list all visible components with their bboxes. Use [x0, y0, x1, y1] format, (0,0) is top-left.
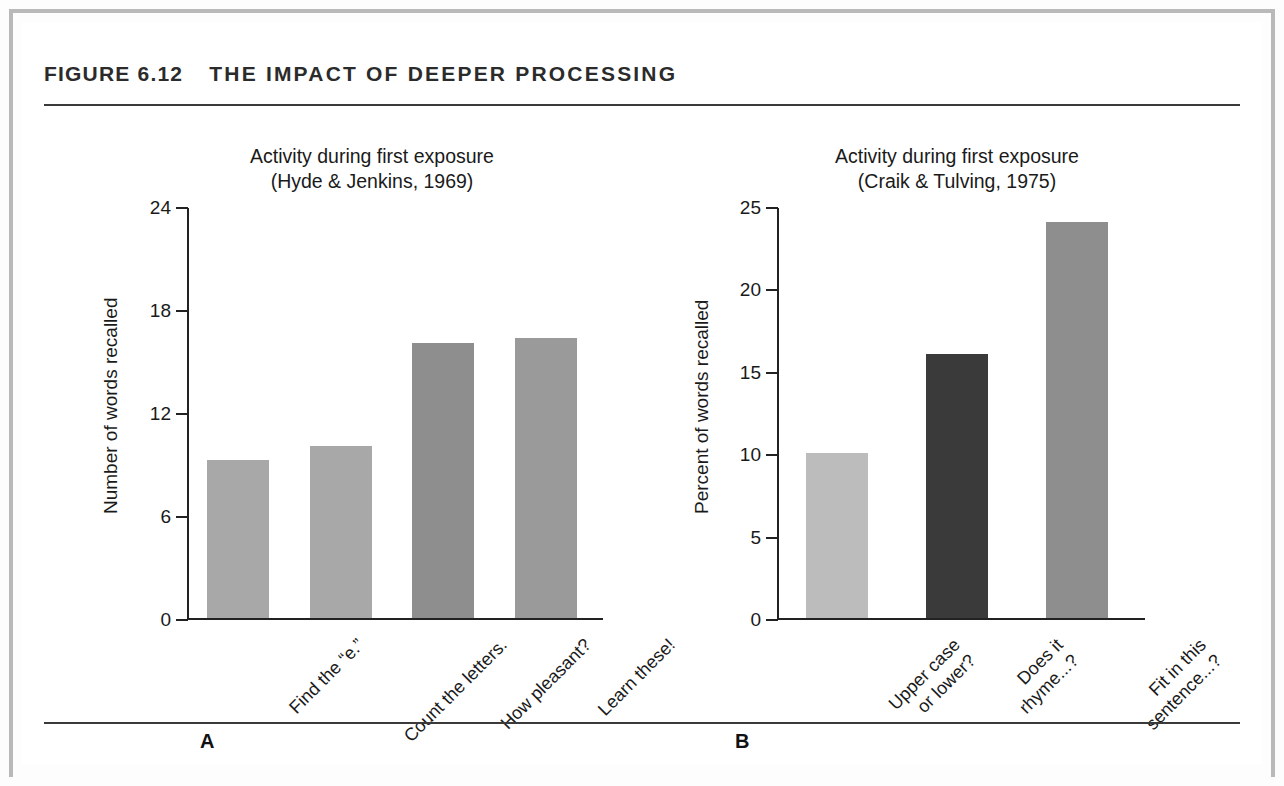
- y-tick-a-1: [176, 516, 188, 518]
- figure-header: FIGURE 6.12 THE IMPACT OF DEEPER PROCESS…: [44, 62, 1224, 86]
- y-tick-b-2: [766, 454, 778, 456]
- y-tick-label-b-5: 25: [740, 197, 761, 219]
- y-tick-a-4: [176, 207, 188, 209]
- chart-panel-b: Activity during first exposure (Craik & …: [677, 122, 1237, 762]
- panel-letter-a: A: [200, 730, 214, 753]
- y-axis-title-a: Number of words recalled: [100, 298, 122, 514]
- y-tick-b-1: [766, 537, 778, 539]
- figure-title: THE IMPACT OF DEEPER PROCESSING: [209, 62, 677, 86]
- bar-b-2: [1046, 222, 1108, 618]
- y-tick-a-0: [176, 619, 188, 621]
- x-axis-label-a-3: Learn these!: [593, 634, 679, 720]
- panel-b-title: Activity during first exposure (Craik & …: [677, 144, 1237, 194]
- bar-a-0: [207, 460, 269, 618]
- x-label-line: Learn these!: [594, 635, 679, 720]
- panel-b-title-line2: (Craik & Tulving, 1975): [677, 169, 1237, 194]
- x-axis-label-a-1: Count the letters.: [399, 634, 511, 746]
- page-border-left: [9, 9, 13, 777]
- bar-a-1: [310, 446, 372, 618]
- y-tick-label-b-4: 20: [740, 279, 761, 301]
- y-tick-label-a-3: 18: [150, 300, 171, 322]
- y-tick-b-3: [766, 372, 778, 374]
- figure-number: FIGURE 6.12: [44, 62, 183, 86]
- x-axis-label-b-0: Upper caseor lower?: [884, 634, 980, 730]
- y-tick-label-b-2: 10: [740, 444, 761, 466]
- y-tick-label-b-0: 0: [750, 609, 761, 631]
- bar-b-0: [806, 453, 868, 618]
- x-axis-b: [777, 618, 1145, 620]
- plot-area-a: 06121824 Find the “e.”Count the letters.…: [187, 208, 597, 620]
- x-axis-a: [187, 618, 603, 620]
- x-axis-label-b-2: Fit in thissentence...?: [1126, 634, 1226, 734]
- y-tick-a-2: [176, 413, 188, 415]
- page-border-top: [9, 9, 1275, 13]
- panel-a-title: Activity during first exposure (Hyde & J…: [82, 144, 662, 194]
- y-tick-label-a-1: 6: [160, 506, 171, 528]
- x-axis-label-a-0: Find the “e.”: [285, 634, 369, 718]
- y-tick-label-b-3: 15: [740, 362, 761, 384]
- bar-a-2: [412, 343, 474, 618]
- y-axis-b: [777, 208, 779, 620]
- y-tick-b-0: [766, 619, 778, 621]
- page-border-right: [1271, 9, 1275, 777]
- panel-a-title-line1: Activity during first exposure: [250, 145, 494, 167]
- footer-divider: [44, 722, 1240, 724]
- header-divider: [44, 104, 1240, 106]
- figure-card: FIGURE 6.12 THE IMPACT OF DEEPER PROCESS…: [22, 22, 1262, 764]
- x-label-line: Find the “e.”: [285, 635, 368, 718]
- panel-a-title-line2: (Hyde & Jenkins, 1969): [82, 169, 662, 194]
- y-tick-b-5: [766, 207, 778, 209]
- y-tick-label-b-1: 5: [750, 527, 761, 549]
- y-tick-label-a-2: 12: [150, 403, 171, 425]
- panel-letter-b: B: [735, 730, 749, 753]
- bar-b-1: [926, 354, 988, 618]
- y-tick-label-a-0: 0: [160, 609, 171, 631]
- bar-a-3: [515, 338, 577, 618]
- y-axis-title-b: Percent of words recalled: [691, 300, 713, 514]
- x-axis-label-b-1: Does itrhyme...?: [999, 634, 1083, 718]
- y-tick-b-4: [766, 289, 778, 291]
- x-label-line: Count the letters.: [400, 635, 511, 746]
- chart-panel-a: Activity during first exposure (Hyde & J…: [82, 122, 662, 762]
- y-tick-label-a-4: 24: [150, 197, 171, 219]
- plot-area-b: 0510152025 Upper caseor lower?Does itrhy…: [777, 208, 1137, 620]
- y-tick-a-3: [176, 310, 188, 312]
- panel-b-title-line1: Activity during first exposure: [835, 145, 1079, 167]
